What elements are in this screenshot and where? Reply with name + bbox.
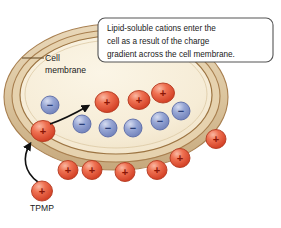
anion: − bbox=[124, 119, 142, 137]
cation: + bbox=[58, 161, 78, 180]
cell-membrane-diagram: − − − − − − bbox=[0, 0, 281, 228]
callout-line-2: cell as a result of the charge bbox=[107, 37, 210, 46]
cation: + bbox=[206, 130, 226, 149]
anion: − bbox=[172, 102, 190, 120]
cell-membrane-label-line1: Cell bbox=[45, 53, 60, 63]
callout-line-1: Lipid-soluble cations enter the bbox=[107, 24, 216, 33]
cation: + bbox=[115, 163, 135, 182]
figure-canvas: − − − − − − bbox=[0, 0, 281, 228]
cation: + bbox=[82, 161, 102, 180]
anion: − bbox=[151, 112, 169, 130]
tpmp-cation: + bbox=[32, 181, 53, 201]
callout-box: Lipid-soluble cations enter the cell as … bbox=[98, 18, 273, 62]
cation: + bbox=[147, 161, 167, 180]
anion: − bbox=[99, 119, 117, 137]
cation: + bbox=[128, 91, 150, 110]
cation: + bbox=[152, 83, 175, 103]
anion: − bbox=[73, 115, 91, 133]
callout-line-3: gradient across the cell membrane. bbox=[107, 50, 235, 59]
cation: + bbox=[95, 92, 119, 113]
anion: − bbox=[41, 96, 59, 114]
cell-membrane-label-line2: membrane bbox=[45, 65, 86, 75]
tpmp-entry-arrow bbox=[25, 144, 38, 182]
cation: + bbox=[170, 149, 190, 168]
tpmp-label: TPMP bbox=[30, 203, 54, 213]
